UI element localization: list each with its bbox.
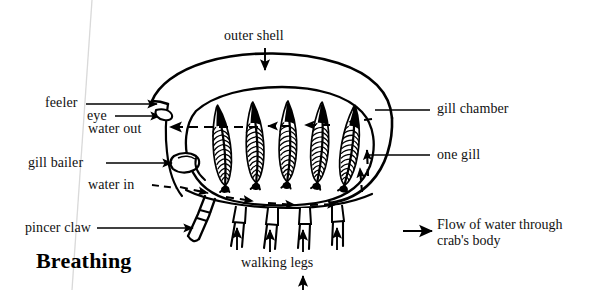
legend-line-1: Flow of water through (437, 217, 563, 233)
walking-leg-4 (332, 205, 344, 246)
eye-shape (155, 109, 172, 120)
walking-leg-1 (231, 206, 246, 247)
walking-leg-2 (264, 208, 278, 249)
legend-caption: Flow of water through crab's body (437, 217, 563, 248)
walking-legs-group (231, 205, 344, 249)
legend-line-2: crab's body (437, 233, 563, 249)
label-water-out: water out (88, 121, 141, 136)
label-water-in: water in (88, 177, 134, 192)
leader-water-in (152, 185, 176, 188)
label-feeler: feeler (45, 95, 77, 110)
label-gill-bailer: gill bailer (28, 155, 83, 170)
scan-artifact-line (72, 0, 92, 290)
label-walking-legs: walking legs (241, 255, 313, 270)
label-pincer-claw: pincer claw (25, 220, 91, 235)
label-one-gill: one gill (437, 147, 480, 162)
diagram-canvas: outer shell feeler eye water out gill ba… (0, 0, 615, 290)
pincer-claw-shape (188, 196, 215, 241)
figure-title: Breathing (36, 248, 132, 274)
walking-leg-3 (298, 208, 311, 249)
label-outer-shell: outer shell (224, 28, 284, 43)
leader-walking-legs (237, 228, 337, 252)
label-gill-chamber: gill chamber (437, 101, 509, 116)
